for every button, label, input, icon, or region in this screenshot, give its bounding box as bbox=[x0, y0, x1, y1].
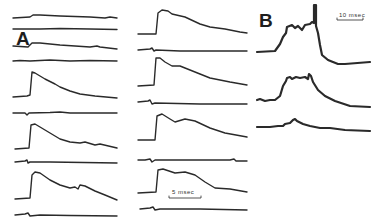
panel-b-traces bbox=[257, 5, 370, 131]
trace-a9-baseline bbox=[140, 207, 247, 210]
panel-a-right-column bbox=[138, 10, 247, 210]
trace-a2-baseline bbox=[13, 60, 117, 61]
trace-a1-response bbox=[13, 15, 117, 18]
trace-a8-response bbox=[138, 114, 247, 140]
panel-a-scale-label: 5 msec bbox=[172, 189, 194, 195]
panel-b-scale-label: 10 msec bbox=[339, 12, 365, 18]
trace-a7-baseline bbox=[138, 100, 247, 104]
figure: A B 5 msec 10 msec bbox=[0, 0, 380, 224]
trace-a6-baseline bbox=[138, 48, 247, 51]
panel-label-b: B bbox=[259, 11, 273, 30]
trace-a3-response bbox=[13, 72, 117, 98]
trace-a4-response bbox=[15, 124, 117, 149]
panel-a-scale-bar bbox=[169, 196, 201, 198]
panel-b-scale-bar bbox=[337, 18, 363, 20]
trace-b2 bbox=[257, 74, 370, 107]
trace-a6-response bbox=[138, 10, 247, 34]
trace-a4-baseline bbox=[15, 160, 117, 163]
trace-a5-baseline bbox=[15, 213, 117, 216]
panel-label-a: A bbox=[16, 29, 30, 48]
trace-a3-baseline bbox=[13, 112, 117, 115]
trace-a7-response bbox=[138, 58, 247, 86]
trace-b3 bbox=[257, 119, 370, 131]
trace-a5-response bbox=[15, 172, 117, 200]
trace-a8-baseline bbox=[138, 159, 247, 162]
